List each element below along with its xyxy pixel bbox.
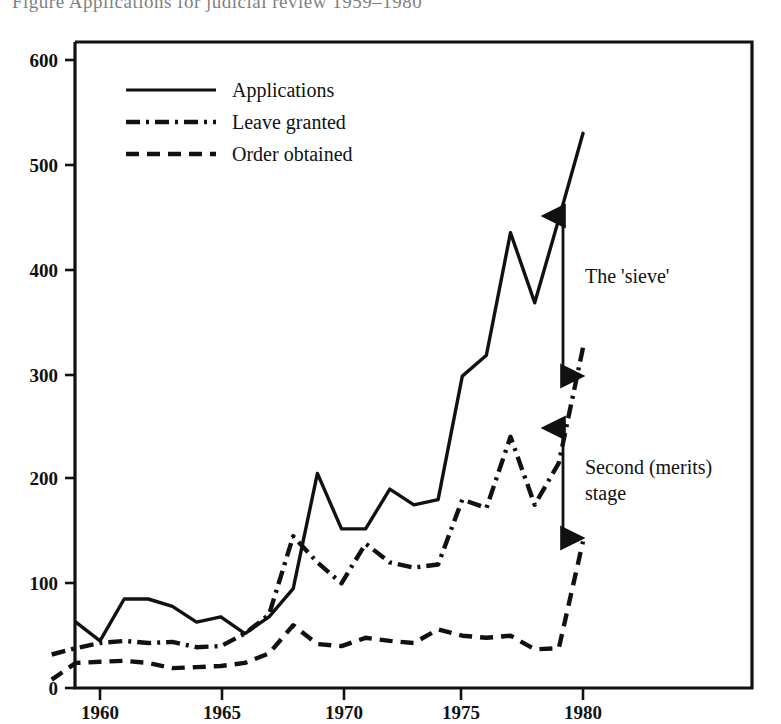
y-tick-label-200: 200 [30, 468, 59, 489]
sieve-label: The 'sieve' [585, 265, 669, 287]
x-tick-label-1980: 1980 [564, 702, 602, 723]
y-tick-label-600: 600 [30, 50, 59, 71]
x-tick-label-1965: 1965 [203, 702, 241, 723]
x-tick-label-1960: 1960 [81, 702, 119, 723]
x-tick-label-1970: 1970 [325, 702, 363, 723]
figure-container: Figure Applications for judicial review … [0, 0, 781, 724]
plot-frame [75, 42, 752, 688]
y-tick-label-500: 500 [30, 155, 59, 176]
legend-label-order-obtained: Order obtained [232, 143, 353, 165]
x-tick-label-1975: 1975 [442, 702, 480, 723]
y-tick-label-300: 300 [30, 365, 59, 386]
series-line-leave-granted [52, 348, 583, 655]
chart-legend: Applications Leave granted Order obtaine… [126, 79, 353, 165]
data-series-group [52, 133, 583, 679]
y-tick-label-100: 100 [30, 573, 59, 594]
second-stage-label-line1: Second (merits) [585, 456, 712, 479]
legend-label-applications: Applications [232, 79, 334, 102]
y-tick-label-400: 400 [30, 260, 59, 281]
y-axis-labels: 600 500 400 300 200 100 0 [30, 50, 59, 699]
line-chart: 600 500 400 300 200 100 0 1960 1965 1970… [0, 0, 781, 724]
series-line-order-obtained [52, 542, 583, 680]
series-line-applications [76, 133, 583, 641]
annotation-second-merits-stage: Second (merits) stage [563, 428, 712, 538]
second-stage-label-line2: stage [585, 482, 626, 505]
legend-label-leave-granted: Leave granted [232, 111, 346, 134]
annotation-sieve: The 'sieve' [563, 216, 669, 376]
x-axis-labels: 1960 1965 1970 1975 1980 [81, 702, 602, 723]
x-axis-ticks [100, 688, 583, 700]
